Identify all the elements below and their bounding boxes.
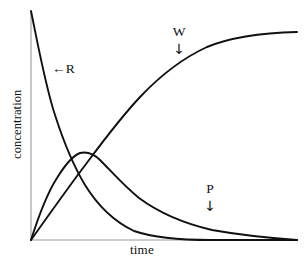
- series-label-p-group: P ↓: [200, 182, 220, 213]
- down-arrow-icon-p: ↓: [200, 199, 220, 213]
- kinetics-chart: concentration time ←R W ↓ P ↓: [0, 0, 305, 263]
- series-label-r: ←R: [52, 62, 75, 76]
- intermediate-decay-curve: [31, 152, 297, 240]
- reactant-decay-curve: [31, 11, 297, 240]
- series-label-w-group: W ↓: [169, 25, 189, 56]
- y-axis-label: concentration: [11, 76, 24, 172]
- series-label-p: P: [200, 182, 220, 196]
- series-label-w: W: [169, 25, 189, 39]
- chart-canvas: [0, 0, 305, 263]
- down-arrow-icon-w: ↓: [169, 42, 189, 56]
- x-axis-label: time: [130, 243, 154, 256]
